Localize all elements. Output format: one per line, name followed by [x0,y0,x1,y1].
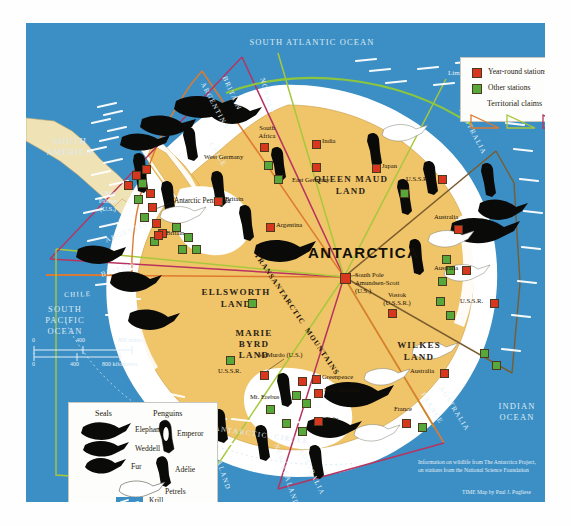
station-marker-cluster-13[interactable] [178,245,187,254]
station-marker-italy-b[interactable] [298,427,307,436]
legend-seal-weddell-icon [83,441,129,457]
station-marker-australia-2c[interactable] [446,266,455,275]
station-marker-cluster-8[interactable] [152,219,161,228]
station-marker-new-zealand-b[interactable] [292,391,301,400]
station-marker-vostok-b[interactable] [436,297,445,306]
scale-km-800: 800 kilometers [102,361,138,367]
station-marker-australia-3c[interactable] [492,361,501,370]
station-marker-cluster-12[interactable] [184,233,193,242]
scale-km-400: 400 [70,361,79,367]
station-marker-greenpeace[interactable] [312,375,321,384]
station-marker-cluster-7[interactable] [140,213,149,222]
legend-penguin-adelie-icon [156,456,171,487]
station-marker-argentina[interactable] [266,223,275,232]
legend-label-seal-fur: Fur [131,462,142,471]
station-marker-east-germany-b[interactable] [312,163,321,172]
legend-label-seal-elephant: Elephant [135,425,162,434]
station-marker-france-b[interactable] [418,423,427,432]
station-marker-ussr-east[interactable] [490,299,499,308]
station-marker-britain-north[interactable] [214,197,223,206]
station-marker-new-zealand-c[interactable] [302,399,311,408]
legend-petrel-icon [119,481,165,497]
legend-penguin-emperor-belly [163,427,169,441]
legend-label-seal-weddell: Weddell [135,444,160,453]
station-marker-west-germany[interactable] [264,161,273,170]
legend-label-petrels: Petrels [165,487,186,496]
legend-label-other: Other stations [488,83,530,92]
claim-wedge-green [507,115,535,128]
station-marker-australia-3[interactable] [440,369,449,378]
legend-label-year-round: Year-round stations [488,67,545,76]
station-marker-cluster-3[interactable] [138,179,147,188]
station-marker-cluster-2[interactable] [142,165,151,174]
scale-miles-800: 800 miles [118,337,142,343]
station-marker-new-zealand[interactable] [314,389,323,398]
station-marker-australia-3b[interactable] [480,349,489,358]
map-page: SOUTH ATLANTIC OCEAN SOUTH AMERICA SOUTH… [0,0,571,526]
legend-swatch-other [472,84,482,94]
station-marker-coast-extra-2[interactable] [282,419,291,428]
legend-krill-streaks [119,500,138,502]
legend-title-penguins: Penguins [153,409,182,418]
legend-krill-swatch [116,497,143,502]
claim-wedge-magenta [543,115,545,128]
station-marker-cluster-11[interactable] [172,223,181,232]
station-marker-cluster-14[interactable] [192,245,201,254]
station-marker-japan[interactable] [372,164,381,173]
station-marker-chile-palmer[interactable] [124,181,133,190]
station-marker-south-africa[interactable] [260,143,269,152]
legend-label-territorial-claims: Territorial claims [487,99,542,108]
legend-wildlife: Seals Penguins Elephant Weddell Fur Empe… [68,402,218,502]
credit-byline: TIME Map by Paul J. Pugliese [462,489,531,497]
station-marker-ussr-marie-byrd[interactable] [226,356,235,365]
legend-swatch-year-round [472,68,482,78]
legend-seal-fur-icon [85,458,126,473]
station-marker-australia-1[interactable] [454,225,463,234]
scale-miles-0: 0 [32,337,35,343]
legend-title-seals: Seals [95,409,112,418]
scale-km-0: 0 [32,361,35,367]
station-marker-mcmurdo[interactable] [260,371,269,380]
legend-stations: Year-round stations Other stations Terri… [460,57,545,122]
station-marker-cluster-5[interactable] [134,195,143,204]
credit-source: Information on wildlife from The Antarct… [418,459,536,474]
station-marker-india[interactable] [312,140,321,149]
station-marker-australia-2[interactable] [462,266,471,275]
station-marker-ussr-north-b[interactable] [400,189,409,198]
station-marker-mt-erebus[interactable] [266,405,275,414]
legend-label-penguin-emperor: Emperor [177,429,204,438]
station-marker-ussr-north[interactable] [438,175,447,184]
station-marker-cluster-4[interactable] [146,189,155,198]
antarctica-map: SOUTH ATLANTIC OCEAN SOUTH AMERICA SOUTH… [26,23,545,502]
station-marker-east-germany[interactable] [274,175,283,184]
legend-label-krill: Krill concentrations [149,496,193,502]
legend-label-penguin-adelie: Adélie [175,465,195,474]
station-marker-britain-peninsula[interactable] [154,231,163,240]
station-marker-ussr-east-b[interactable] [446,311,455,320]
station-marker-australia-2b[interactable] [442,255,451,264]
station-marker-vostok[interactable] [388,309,397,318]
station-marker-cluster-6[interactable] [148,203,157,212]
station-marker-pole-area[interactable] [248,299,257,308]
scale-miles-400: 400 [76,337,85,343]
station-marker-south-pole[interactable] [340,273,351,284]
station-marker-italy[interactable] [314,417,323,426]
claim-wedge-orange [471,115,499,128]
station-marker-greenpeace-b[interactable] [298,377,307,386]
legend-seal-elephant-icon [81,422,131,440]
station-marker-australia-2d[interactable] [438,277,447,286]
station-marker-france[interactable] [402,419,411,428]
legend-claim-wedges [461,111,545,133]
